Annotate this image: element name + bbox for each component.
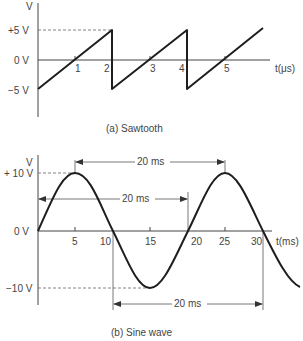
period-label-zero-to-zero: 20 ms [122, 193, 149, 204]
sawtooth-chart: V +5 V 0 V −5 V 1 2 3 4 5 t(μs) (a) Sawt… [8, 1, 295, 134]
sawtooth-caption: (a) Sawtooth [106, 123, 163, 134]
period-label-trough-region: 20 ms [174, 298, 201, 309]
sine-y-tick-minus10: −10 V [6, 283, 33, 294]
sine-y-axis-label: V [26, 157, 33, 168]
sine-y-tick-plus10: + 10 V [4, 168, 34, 179]
sine-x-tick-5: 5 [72, 236, 78, 247]
sine-x-ticks [75, 227, 225, 231]
sawtooth-x-tick-4: 4 [179, 63, 185, 74]
sawtooth-waveform [38, 28, 263, 89]
waveform-figure: V +5 V 0 V −5 V 1 2 3 4 5 t(μs) (a) Sawt… [0, 0, 303, 341]
sawtooth-y-tick-minus5: −5 V [8, 85, 29, 96]
sawtooth-y-axis-label: V [26, 1, 33, 12]
sine-y-tick-0: 0 V [14, 226, 29, 237]
sine-x-axis-label: t(ms) [276, 236, 299, 247]
sawtooth-x-tick-5: 5 [224, 63, 230, 74]
sine-x-tick-30: 30 [251, 236, 263, 247]
sine-x-tick-20: 20 [191, 236, 203, 247]
sawtooth-x-tick-3: 3 [150, 63, 156, 74]
sine-x-tick-25: 25 [219, 236, 231, 247]
sine-x-tick-10: 10 [100, 236, 112, 247]
sawtooth-x-tick-1: 1 [75, 63, 81, 74]
sawtooth-x-axis-label: t(μs) [275, 63, 295, 74]
period-label-peak-to-peak: 20 ms [137, 156, 164, 167]
sawtooth-y-tick-plus5: +5 V [8, 25, 29, 36]
sine-caption: (b) Sine wave [111, 327, 173, 338]
sine-x-tick-15: 15 [145, 236, 157, 247]
sawtooth-y-tick-0: 0 V [14, 55, 29, 66]
sawtooth-x-tick-2: 2 [104, 63, 110, 74]
sine-chart: 20 ms 20 ms 20 ms V + 10 V 0 V −10 V 5 1… [4, 155, 300, 338]
